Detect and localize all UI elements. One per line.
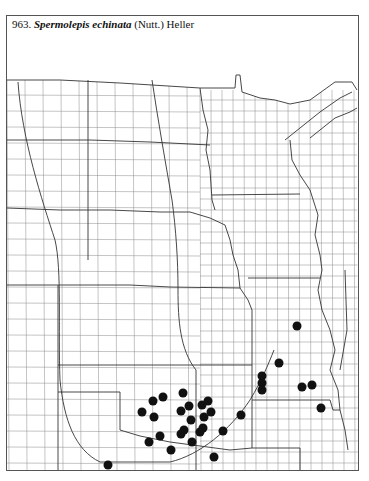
occurrence-dot <box>293 322 302 331</box>
occurrence-dot <box>188 438 197 447</box>
occurrence-dot <box>196 428 205 437</box>
occurrence-dot <box>145 438 154 447</box>
occurrence-dot <box>185 402 194 411</box>
occurrence-dot <box>204 397 213 406</box>
occurrence-dot <box>156 432 165 441</box>
occurrence-dot <box>275 359 284 368</box>
occurrence-dot <box>308 381 317 390</box>
occurrence-dot <box>200 413 209 422</box>
occurrence-dot <box>258 386 267 395</box>
occurrence-dot <box>179 389 188 398</box>
occurrence-dot <box>219 427 228 436</box>
occurrence-dot <box>210 453 219 462</box>
distribution-map <box>0 0 369 481</box>
occurrence-dot <box>138 408 147 417</box>
occurrence-dot <box>237 411 246 420</box>
occurrence-dot <box>167 446 176 455</box>
occurrence-dot <box>317 404 326 413</box>
occurrence-dot <box>298 383 307 392</box>
occurrence-dots <box>104 322 326 470</box>
occurrence-dot <box>150 413 159 422</box>
occurrence-dot <box>104 461 113 470</box>
occurrence-dot <box>177 407 186 416</box>
occurrence-dot <box>159 393 168 402</box>
occurrence-dot <box>149 397 158 406</box>
occurrence-dot <box>187 416 196 425</box>
occurrence-dot <box>177 430 186 439</box>
